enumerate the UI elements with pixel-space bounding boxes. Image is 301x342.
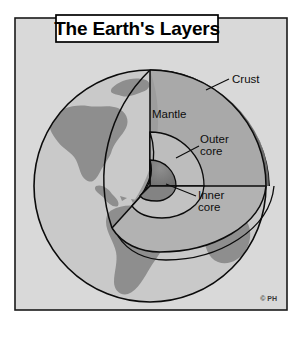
label-crust: Crust: [232, 73, 260, 85]
earth-layers-diagram: Crust Mantle Outer core Inner core © PH …: [0, 0, 301, 342]
title-box: The Earth's Layers: [54, 15, 220, 42]
label-mantle: Mantle: [152, 108, 187, 120]
copyright-credit: © PH: [260, 295, 277, 302]
figure-canvas: Crust Mantle Outer core Inner core © PH …: [0, 0, 301, 342]
label-inner-core-line1: Inner: [198, 189, 224, 201]
label-inner-core-line2: core: [198, 201, 220, 213]
page-title: The Earth's Layers: [54, 18, 220, 39]
label-outer-core-line2: core: [200, 145, 222, 157]
label-outer-core-line1: Outer: [200, 133, 229, 145]
